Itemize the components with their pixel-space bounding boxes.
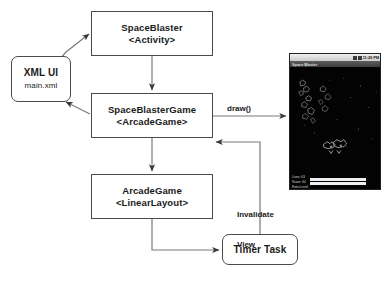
node-arcadegame-linearlayout: ArcadeGame <LinearLayout> xyxy=(91,174,213,219)
phone-status-bar: 11:29 PM xyxy=(290,54,380,61)
node-xml-ui: XML UI main.xml xyxy=(11,56,71,102)
node-arcadegame-line2: <LinearLayout> xyxy=(116,197,188,209)
node-arcadegame-line1: ArcadeGame xyxy=(122,185,182,197)
game-canvas: Lives: 03 Score: 00 Extra Level xyxy=(290,67,380,190)
node-xml-ui-line1: XML UI xyxy=(24,67,58,79)
node-spaceblastergame-line2: <ArcadeGame> xyxy=(117,116,188,128)
phone-app-title: Space Blaster xyxy=(292,62,317,67)
ship-sprite xyxy=(323,140,346,154)
node-spaceblastergame-arcadegame: SpaceBlasterGame <ArcadeGame> xyxy=(91,93,213,138)
asteroid-field xyxy=(299,78,377,147)
node-spaceblastergame-line1: SpaceBlasterGame xyxy=(108,104,196,116)
phone-screenshot: 11:29 PM Space Blaster xyxy=(289,53,381,190)
hud-bar-group xyxy=(310,178,366,190)
edge-label-invalidate-line1: Invalidate xyxy=(237,210,274,220)
hud-bar-1 xyxy=(310,178,366,181)
node-spaceblaster-line2: <Activity> xyxy=(129,34,175,46)
game-hud: Lives: 03 Score: 00 Extra Level xyxy=(292,175,380,189)
hud-line-score: Score: 00 xyxy=(292,180,308,184)
edge-game-to-xmlui xyxy=(66,102,90,114)
status-bar-clock: 11:29 PM xyxy=(363,55,379,60)
hud-line-lives: Lives: 03 xyxy=(292,175,308,179)
node-spaceblaster-line1: SpaceBlaster xyxy=(121,22,182,34)
diagram-canvas: SpaceBlaster <Activity> XML UI main.xml … xyxy=(0,0,387,285)
signal-icon xyxy=(353,56,357,60)
edge-arcadegame-to-timer xyxy=(152,219,219,250)
hud-text-group: Lives: 03 Score: 00 Extra Level xyxy=(292,175,308,189)
edge-label-invalidate-line2: View xyxy=(237,240,274,250)
hud-bar-2 xyxy=(310,182,366,185)
node-xml-ui-line2: main.xml xyxy=(25,80,58,92)
edge-label-draw: draw() xyxy=(227,104,251,114)
status-icon-group xyxy=(353,56,362,60)
node-spaceblaster-activity: SpaceBlaster <Activity> xyxy=(91,11,213,56)
battery-icon xyxy=(358,56,362,60)
game-sprites-layer xyxy=(290,67,380,190)
hud-line-extra-level: Extra Level xyxy=(292,185,308,189)
edge-label-invalidate-view: Invalidate View xyxy=(237,190,274,270)
